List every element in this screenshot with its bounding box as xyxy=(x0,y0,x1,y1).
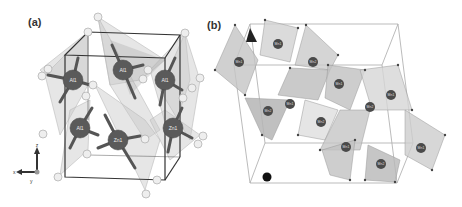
panel-a: (a) xyxy=(0,0,230,207)
cation-label: Al1 xyxy=(76,125,83,131)
panel-b: (b) xyxy=(200,0,462,207)
cation-label: Mn1 xyxy=(236,60,243,64)
crystal-structure-a: Al1 Al1 Al1 Al1 Zn1 Zn1 z x y xyxy=(0,0,230,207)
cation-label: Mn2 xyxy=(318,120,325,124)
cation-label: Mn1 xyxy=(418,146,425,150)
cation-label: Mn2 xyxy=(378,162,385,166)
cation-label: Mn2 xyxy=(265,109,272,113)
cation-label: Mn2 xyxy=(310,60,317,64)
axis-label-x: x xyxy=(13,169,16,175)
axis-triad: z x y xyxy=(13,142,40,184)
axis-label-y: y xyxy=(30,178,33,184)
cation-label: Zn1 xyxy=(169,125,178,131)
cation-label: Mn1 xyxy=(388,93,395,97)
cation-label: Mn2 xyxy=(367,105,374,109)
cation-label: Zn1 xyxy=(114,137,123,143)
crystal-structure-b: Mn1 Mn1 Mn2 Mn1 Mn2 Mn1 Mn2 Mn1 Mn2 Mn1 … xyxy=(200,0,462,207)
cation-label: Mn1 xyxy=(336,82,343,86)
cation-label: Mn1 xyxy=(287,102,294,106)
cation-label: Al1 xyxy=(119,67,126,73)
cation-label: Al1 xyxy=(161,77,168,83)
cation-label: Mn1 xyxy=(275,42,282,46)
cation-label: Al1 xyxy=(69,77,76,83)
axis-label-z: z xyxy=(36,142,39,148)
origin-marker xyxy=(263,173,272,182)
cation-label: Mn1 xyxy=(343,145,350,149)
